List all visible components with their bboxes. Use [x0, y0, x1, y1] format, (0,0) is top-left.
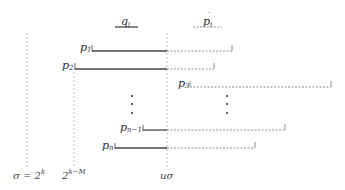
row-pn-minus-1: pn−1	[120, 121, 285, 134]
svg-text:p3: p3	[178, 77, 190, 90]
row-p3: p3	[178, 77, 331, 90]
ellipsis-right	[226, 95, 228, 114]
svg-text:pn−1: pn−1	[120, 121, 142, 134]
legend-dashed: pi′	[193, 11, 222, 29]
u-sigma-label: uσ	[160, 170, 174, 181]
row-p2: p2	[62, 59, 214, 72]
row-p1: p1	[80, 41, 232, 54]
row-pn: pn	[102, 139, 255, 152]
legend-solid: qi	[115, 15, 138, 29]
diagram-canvas: qi pi′ p1 p2 p3 pn−1	[0, 0, 345, 190]
ellipsis-left	[131, 95, 133, 114]
k-minus-m-label: 2k−M	[61, 168, 86, 181]
sigma-label: σ = 2k	[13, 168, 45, 181]
svg-text:p1: p1	[80, 41, 92, 54]
svg-text:pn: pn	[102, 139, 114, 152]
svg-text:p2: p2	[62, 59, 74, 72]
svg-text:pi′: pi′	[203, 11, 212, 29]
